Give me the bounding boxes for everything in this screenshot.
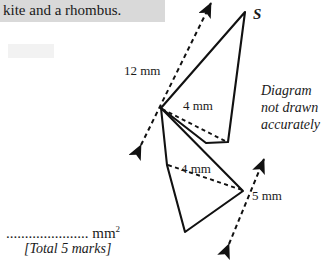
answer-unit: mm	[92, 225, 115, 241]
vertex-label-s: S	[253, 6, 261, 23]
note-line-2: not drawn	[261, 99, 320, 116]
note-line-3: accurately	[261, 116, 320, 133]
diagram-accuracy-note: Diagram not drawn accurately	[261, 82, 320, 133]
answer-entry-line[interactable]: ...................... mm2	[6, 220, 120, 242]
total-marks-label: [Total 5 marks]	[24, 240, 111, 257]
dimension-label-12mm: 12 mm	[124, 63, 160, 78]
page-canvas: kite and a rhombus. S 12 mm 4 mm 4 mm 5 …	[0, 0, 330, 264]
dimension-label-5mm: 5 mm	[252, 188, 282, 203]
dimension-line-4mm-upper	[162, 109, 227, 142]
note-line-1: Diagram	[261, 82, 320, 99]
answer-dots: ......................	[6, 225, 89, 241]
dimension-label-4mm-lower: 4 mm	[181, 161, 211, 176]
dimension-label-4mm-upper: 4 mm	[183, 98, 213, 113]
answer-unit-exponent: 2	[116, 224, 121, 234]
